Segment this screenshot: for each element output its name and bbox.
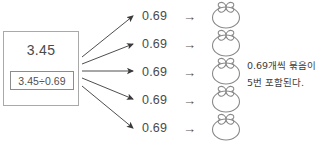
group-row: 0.69 → — [142, 89, 196, 111]
caption-line-1: 0.69개씩 묶음이 — [247, 57, 324, 74]
group-value: 0.69 — [142, 93, 176, 107]
orange-icon — [206, 0, 246, 29]
right-arrow-icon: → — [183, 66, 196, 79]
group-value: 0.69 — [142, 37, 176, 51]
group-row: 0.69 → — [142, 33, 196, 55]
right-arrow-icon: → — [183, 122, 196, 135]
orange-icon — [206, 26, 246, 57]
right-arrow-icon: → — [183, 94, 196, 107]
explanation-caption: 0.69개씩 묶음이 5번 포함된다. — [247, 57, 324, 91]
orange-icon — [206, 82, 246, 113]
group-row: 0.69 → — [142, 61, 196, 83]
group-value: 0.69 — [142, 9, 176, 23]
orange-icon — [206, 54, 246, 85]
right-arrow-icon: → — [183, 38, 196, 51]
arrow-to-group-2 — [82, 44, 133, 64]
group-value: 0.69 — [142, 121, 176, 135]
arrow-to-group-4 — [82, 78, 133, 99]
orange-icon — [206, 110, 246, 141]
right-arrow-icon: → — [183, 10, 196, 23]
group-row: 0.69 → — [142, 5, 196, 27]
group-row: 0.69 → — [142, 117, 196, 139]
caption-line-2: 5번 포함된다. — [247, 74, 324, 91]
arrow-to-group-5 — [82, 86, 133, 128]
group-value: 0.69 — [142, 65, 176, 79]
arrow-to-group-1 — [82, 16, 133, 57]
division-diagram: 3.45 3.45÷0.69 0.69 → 0.69 → 0.69 → 0.69 — [0, 0, 324, 147]
